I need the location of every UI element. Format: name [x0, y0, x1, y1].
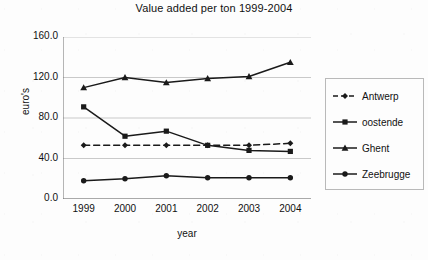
data-point-marker: [122, 134, 127, 139]
y-tick-label: 0.0: [16, 192, 58, 203]
legend-label: Antwerp: [362, 91, 399, 102]
data-point-marker: [164, 129, 169, 134]
data-point-marker: [342, 119, 347, 124]
plot-area: [63, 37, 311, 199]
data-point-marker: [246, 148, 251, 153]
data-point-marker: [163, 142, 169, 148]
x-tick-label: 2002: [185, 203, 231, 214]
series-line: [84, 62, 291, 87]
chart-plot-svg: [63, 37, 311, 199]
legend-swatch-circle-icon: [332, 168, 358, 180]
legend-item-oostende[interactable]: oostende: [332, 115, 403, 129]
chart-root: Value added per ton 1999-2004 euro's 0.0…: [0, 0, 428, 260]
chart-title: Value added per ton 1999-2004: [0, 2, 428, 14]
y-tick-label: 160.0: [16, 30, 58, 41]
data-point-marker: [205, 175, 210, 180]
data-point-marker: [287, 59, 294, 65]
legend-swatch-diamond-icon: [332, 90, 358, 102]
data-point-marker: [122, 176, 127, 181]
y-axis-tick-labels: 0.040.080.0120.0160.0: [12, 0, 58, 260]
y-tick-label: 40.0: [16, 152, 58, 163]
x-tick-label: 2000: [102, 203, 148, 214]
data-point-marker: [246, 142, 252, 148]
series-antwerp: [81, 140, 294, 148]
legend-item-ghent[interactable]: Ghent: [332, 141, 389, 155]
data-point-marker: [81, 178, 86, 183]
data-point-marker: [81, 104, 86, 109]
series-line: [84, 143, 291, 145]
x-tick-label: 2001: [143, 203, 189, 214]
chart-legend: AntwerpoostendeGhentZeebrugge: [325, 78, 424, 190]
legend-label: oostende: [362, 117, 403, 128]
data-point-marker: [205, 143, 210, 148]
data-point-marker: [81, 142, 87, 148]
data-point-marker: [342, 171, 347, 176]
data-point-marker: [246, 175, 251, 180]
data-point-marker: [164, 173, 169, 178]
series-line: [84, 176, 291, 181]
data-point-marker: [122, 142, 128, 148]
legend-item-zeebrugge[interactable]: Zeebrugge: [332, 167, 410, 181]
x-tick-label: 2004: [267, 203, 313, 214]
data-point-marker: [287, 140, 293, 146]
legend-label: Ghent: [362, 143, 389, 154]
x-tick-label: 2003: [226, 203, 272, 214]
x-tick-label: 1999: [61, 203, 107, 214]
y-tick-label: 80.0: [16, 111, 58, 122]
legend-item-antwerp[interactable]: Antwerp: [332, 89, 399, 103]
legend-swatch-triangle-icon: [332, 142, 358, 154]
series-oostende: [81, 104, 293, 154]
y-tick-label: 120.0: [16, 71, 58, 82]
data-point-marker: [288, 175, 293, 180]
data-point-marker: [288, 149, 293, 154]
series-ghent: [80, 59, 293, 90]
series-zeebrugge: [81, 173, 293, 183]
data-point-marker: [342, 93, 348, 99]
legend-label: Zeebrugge: [362, 169, 410, 180]
x-axis-tick-labels: 199920002001200220032004: [63, 203, 311, 221]
legend-swatch-square-icon: [332, 116, 358, 128]
x-axis-label: year: [63, 228, 311, 239]
